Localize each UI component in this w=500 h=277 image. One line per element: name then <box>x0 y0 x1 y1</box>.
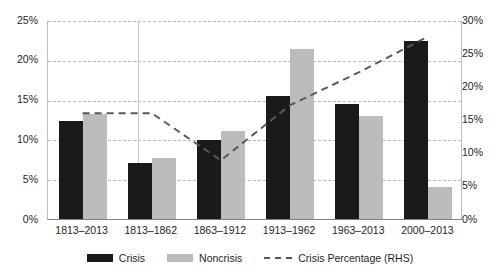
y-axis-right-tick: 10% <box>462 147 500 158</box>
x-axis-tick: 1813–1862 <box>116 224 185 236</box>
x-axis-tick: 1813–2013 <box>47 224 116 236</box>
y-axis-left-tick: 5% <box>0 174 38 185</box>
y-axis-right-tick: 5% <box>462 180 500 191</box>
legend: Crisis Noncrisis Crisis Percentage (RHS) <box>0 252 500 264</box>
legend-label-crisis: Crisis <box>119 252 145 264</box>
y-axis-right-tick: 15% <box>462 114 500 125</box>
chart-container: 25% 20% 15% 10% 5% 0% 30% 25% 20% 15% 10… <box>0 0 500 277</box>
crisis-percentage-line <box>48 21 463 220</box>
y-axis-left-tick: 25% <box>0 15 38 26</box>
legend-item-crisis-percentage: Crisis Percentage (RHS) <box>264 252 413 264</box>
x-axis-tick: 2000–2013 <box>393 224 462 236</box>
x-axis-tick: 1913–1962 <box>255 224 324 236</box>
y-axis-left-tick: 10% <box>0 134 38 145</box>
legend-label-crisis-percentage: Crisis Percentage (RHS) <box>298 252 413 264</box>
x-axis-tick: 1863–1912 <box>185 224 254 236</box>
plot-area <box>47 21 462 220</box>
y-axis-left-tick: 15% <box>0 94 38 105</box>
y-axis-left-tick: 20% <box>0 54 38 65</box>
legend-item-crisis: Crisis <box>87 252 145 264</box>
y-axis-right-tick: 25% <box>462 48 500 59</box>
legend-swatch-crisis-icon <box>87 254 113 262</box>
legend-swatch-noncrisis-icon <box>167 254 193 262</box>
x-axis-tick: 1963–2013 <box>324 224 393 236</box>
legend-label-noncrisis: Noncrisis <box>199 252 242 264</box>
legend-swatch-dashed-line-icon <box>264 257 292 259</box>
y-axis-right-tick: 30% <box>462 15 500 26</box>
y-axis-right-tick: 0% <box>462 214 500 225</box>
legend-item-noncrisis: Noncrisis <box>167 252 242 264</box>
y-axis-left-tick: 0% <box>0 214 38 225</box>
y-axis-right-tick: 20% <box>462 81 500 92</box>
